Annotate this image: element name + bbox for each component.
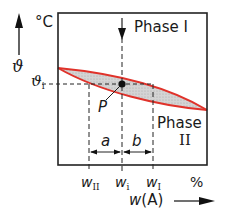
y-axis-unit-label: °C: [35, 15, 53, 30]
x-axis-symbol-label: w(A): [129, 193, 163, 208]
two-phase-lens: [58, 68, 207, 110]
y-axis-arrow-icon: [15, 13, 23, 55]
phase-i-label: Phase I: [134, 20, 188, 35]
w-I-symbol: w: [146, 174, 157, 190]
segment-a-arrow-icon: [90, 150, 121, 155]
theta-i-subscript: i: [42, 81, 45, 91]
x-axis-unit-label: %: [190, 175, 203, 189]
segment-a-label: a: [101, 134, 110, 149]
w-II-subscript: II: [92, 182, 99, 192]
y-axis-symbol-label: ϑ: [12, 59, 23, 75]
w-I-label: wI: [146, 175, 161, 192]
w-i-symbol: w: [115, 174, 126, 190]
cooling-arrow-icon: [118, 18, 126, 40]
theta-i-label: ϑi: [31, 74, 45, 91]
x-axis-symbol-rest: (A): [141, 191, 163, 209]
segment-b-label: b: [132, 134, 142, 149]
w-II-label: wII: [81, 175, 100, 192]
point-p-label: P: [98, 100, 107, 115]
w-i-label: wi: [115, 175, 129, 192]
phase-ii-label-line1: Phase: [157, 116, 202, 131]
segment-b-arrow-icon: [123, 150, 152, 155]
theta-i-symbol: ϑ: [31, 72, 42, 90]
w-II-symbol: w: [81, 174, 92, 190]
phase-ii-label-line2: II: [179, 133, 191, 148]
x-axis-arrow-icon: [174, 197, 215, 205]
